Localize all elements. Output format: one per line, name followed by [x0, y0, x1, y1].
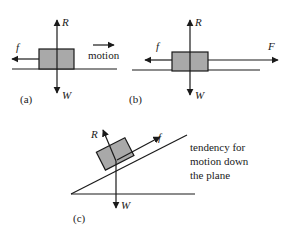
motion-label: motion — [88, 49, 120, 61]
panel-a: R W f motion (a) — [12, 16, 120, 106]
incline-line — [71, 135, 187, 194]
friction-label: f — [16, 41, 21, 53]
friction-label: f — [156, 40, 161, 52]
panel-caption: (a) — [20, 93, 33, 106]
friction-label: f — [158, 131, 163, 143]
panel-c: R f W tendency for motion down the plane… — [71, 128, 249, 225]
note-line-2: motion down — [190, 155, 249, 167]
normal-force-label: R — [90, 128, 98, 140]
weight-label: W — [195, 89, 205, 101]
free-body-diagrams: R W f motion (a) R W f F (b) R f W tende… — [0, 0, 288, 232]
note-line-1: tendency for — [190, 141, 246, 153]
panel-caption: (b) — [129, 93, 142, 106]
panel-caption: (c) — [73, 212, 86, 225]
applied-force-label: F — [267, 40, 275, 52]
normal-force-label: R — [194, 16, 202, 28]
weight-label: W — [62, 89, 72, 101]
note-line-3: the plane — [190, 169, 230, 181]
normal-force-label: R — [61, 16, 69, 28]
weight-label: W — [121, 199, 131, 211]
panel-b: R W f F (b) — [129, 16, 278, 106]
